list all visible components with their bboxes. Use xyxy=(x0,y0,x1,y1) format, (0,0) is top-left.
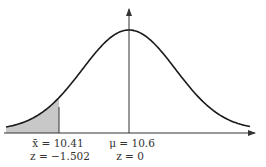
mu-label: μ = 10.6 xyxy=(109,137,155,149)
z-mu-label: z = 0 xyxy=(116,150,144,162)
normal-distribution-diagram: x̄ = 10.41 z = −1.502 μ = 10.6 z = 0 xyxy=(0,0,266,167)
shaded-left-tail xyxy=(6,98,59,133)
z-left-label: z = −1.502 xyxy=(30,150,90,162)
normal-curve xyxy=(6,30,250,127)
xbar-label: x̄ = 10.41 xyxy=(32,137,83,149)
